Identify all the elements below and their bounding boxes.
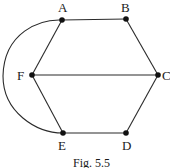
edges (3, 19, 158, 133)
edge-a-b (62, 19, 126, 20)
figure-caption: Fig. 5.5 (73, 156, 110, 168)
label-d: D (122, 138, 131, 153)
label-f: F (17, 68, 24, 83)
node-a (59, 17, 65, 23)
node-c (155, 72, 161, 78)
edge-e-f (32, 75, 63, 133)
label-c: C (162, 68, 170, 83)
node-b (123, 16, 129, 22)
node-d (123, 130, 129, 136)
node-e (60, 130, 66, 136)
node-f (29, 72, 35, 78)
edge-c-d (126, 75, 158, 133)
label-a: A (58, 0, 68, 15)
edge-f-a (32, 20, 62, 75)
graph-diagram: A B C D E F Fig. 5.5 (0, 0, 170, 168)
edge-b-c (126, 19, 158, 75)
label-b: B (121, 0, 130, 15)
label-e: E (58, 138, 66, 153)
nodes (29, 16, 161, 136)
